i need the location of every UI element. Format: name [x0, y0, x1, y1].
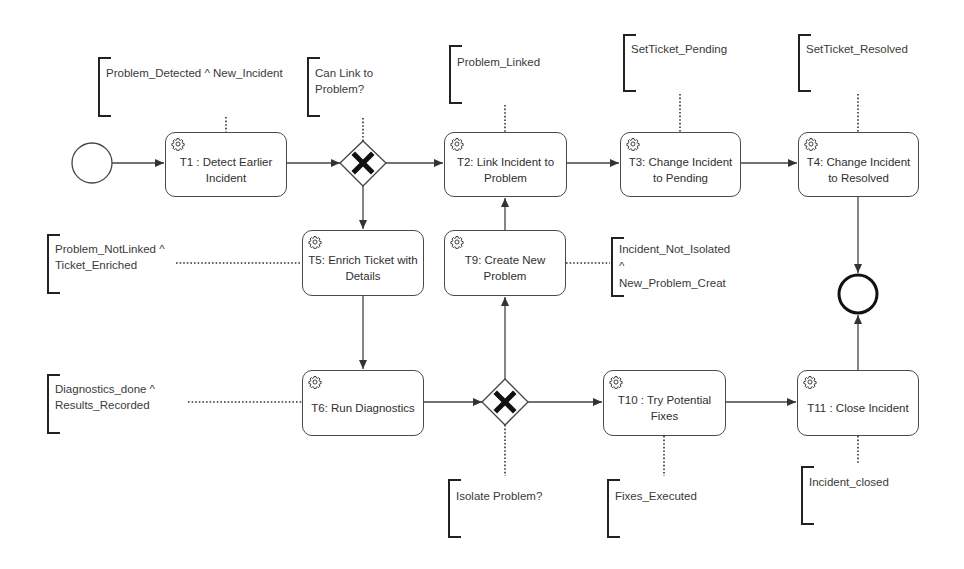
task-t2[interactable]: T2: Link Incident to Problem	[444, 132, 567, 197]
annotation-a6: Problem_NotLinked ^ Ticket_Enriched	[47, 234, 177, 294]
task-t11[interactable]: T11 : Close Incident	[797, 370, 919, 436]
annotation-a11: Incident_closed	[801, 466, 931, 525]
annotation-a9: Isolate Problem?	[448, 479, 578, 538]
gear-icon	[308, 375, 322, 389]
annotation-text: Incident_Not_Isolated ^ New_Problem_Crea…	[619, 241, 761, 292]
task-label: T6: Run Diagnostics	[311, 400, 415, 416]
task-label: T4: Change Incident to Resolved	[803, 154, 914, 186]
task-t3[interactable]: T3: Change Incident to Pending	[620, 132, 741, 197]
gateway-g1	[340, 141, 386, 186]
annotation-text: Isolate Problem?	[456, 488, 578, 504]
end-event	[839, 275, 877, 313]
annotation-text: Problem_Detected ^ New_Incident	[106, 65, 308, 81]
gear-icon	[171, 137, 185, 151]
annotation-text: Diagnostics_done ^ Results_Recorded	[55, 381, 187, 413]
annotation-a8: Diagnostics_done ^ Results_Recorded	[47, 374, 187, 434]
gear-icon	[626, 137, 640, 151]
gateway-g2	[482, 379, 528, 425]
annotation-a4: SetTicket_Pending	[623, 34, 763, 92]
task-label: T2: Link Incident to Problem	[449, 154, 562, 186]
annotation-a5: SetTicket_Resolved	[798, 34, 938, 92]
annotation-a2: Can Link to Problem?	[307, 57, 417, 117]
annotation-text: Problem_Linked	[457, 54, 579, 70]
annotation-a1: Problem_Detected ^ New_Incident	[98, 57, 308, 117]
annotation-text: Fixes_Executed	[615, 488, 737, 504]
task-t6[interactable]: T6: Run Diagnostics	[302, 370, 424, 436]
task-t10[interactable]: T10 : Try Potential Fixes	[603, 370, 726, 436]
annotation-a7: Incident_Not_Isolated ^ New_Problem_Crea…	[611, 237, 761, 297]
gear-icon	[804, 137, 818, 151]
gear-icon	[609, 375, 623, 389]
annotation-text: SetTicket_Resolved	[806, 41, 938, 57]
task-label: T5: Enrich Ticket with Details	[307, 252, 419, 284]
annotation-text: SetTicket_Pending	[631, 41, 763, 57]
annotation-text: Can Link to Problem?	[315, 65, 417, 97]
annotation-text: Problem_NotLinked ^ Ticket_Enriched	[55, 241, 177, 273]
gear-icon	[450, 137, 464, 151]
task-t5[interactable]: T5: Enrich Ticket with Details	[302, 230, 424, 296]
annotation-text: Incident_closed	[809, 474, 931, 490]
task-label: T9: Create New Problem	[449, 252, 561, 284]
start-event	[72, 143, 112, 183]
gear-icon	[308, 235, 322, 249]
task-label: T3: Change Incident to Pending	[625, 154, 736, 186]
gear-icon	[803, 375, 817, 389]
task-t1[interactable]: T1 : Detect Earlier Incident	[165, 132, 287, 197]
task-t4[interactable]: T4: Change Incident to Resolved	[798, 132, 919, 197]
task-label: T10 : Try Potential Fixes	[608, 392, 721, 424]
task-label: T11 : Close Incident	[807, 400, 908, 416]
annotation-a3: Problem_Linked	[449, 45, 579, 104]
annotation-a10: Fixes_Executed	[607, 479, 737, 538]
gear-icon	[450, 235, 464, 249]
task-t9[interactable]: T9: Create New Problem	[444, 230, 566, 296]
task-label: T1 : Detect Earlier Incident	[170, 154, 282, 186]
